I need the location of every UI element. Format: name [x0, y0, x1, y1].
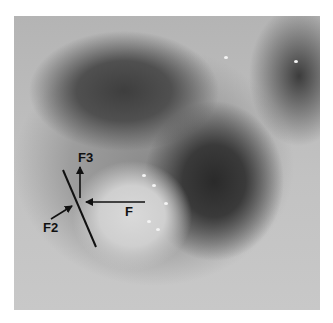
- label-f2: F2: [43, 220, 58, 235]
- force-diagram: [0, 0, 333, 323]
- label-f3: F3: [78, 150, 93, 165]
- label-f: F: [125, 204, 133, 219]
- force-f2-arrow: [51, 206, 72, 219]
